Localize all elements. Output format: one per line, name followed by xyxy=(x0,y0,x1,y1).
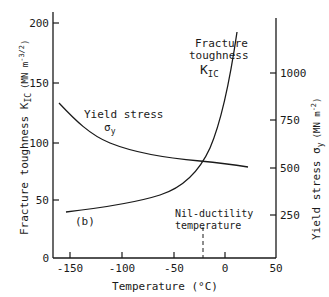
yield-stress-annotation: Yield stress σy xyxy=(84,108,163,136)
svg-text:σy: σy xyxy=(104,121,116,136)
y-right-ticks xyxy=(270,73,276,215)
svg-text:150: 150 xyxy=(29,77,49,90)
svg-text:100: 100 xyxy=(29,137,49,150)
svg-text:200: 200 xyxy=(29,17,49,30)
svg-text:Yield stress: Yield stress xyxy=(84,108,163,121)
svg-text:-100: -100 xyxy=(109,262,136,275)
svg-text:Nil-ductility: Nil-ductility xyxy=(175,208,253,219)
chart-canvas: 0 50 100 150 200 1000 750 500 250 -150 -… xyxy=(0,0,329,297)
svg-text:toughness: toughness xyxy=(189,49,249,62)
y-right-tick-labels: 1000 750 500 250 xyxy=(280,67,307,222)
y-left-tick-labels: 0 50 100 150 200 xyxy=(29,17,49,265)
ndt-annotation: Nil-ductility temperature xyxy=(175,208,253,231)
svg-text:-150: -150 xyxy=(57,262,84,275)
svg-text:Fracture toughness KIC(MN m-3: Fracture toughness KIC(MN m-3/2) xyxy=(18,40,33,235)
panel-label: (b) xyxy=(75,215,95,228)
y-right-axis-label: Yield stress σy(MN m-2) xyxy=(310,98,325,241)
svg-text:1000: 1000 xyxy=(280,67,307,80)
svg-text:0: 0 xyxy=(42,252,49,265)
svg-text:750: 750 xyxy=(280,114,300,127)
svg-text:500: 500 xyxy=(280,162,300,175)
y-left-ticks xyxy=(53,23,59,200)
svg-text:50: 50 xyxy=(36,194,49,207)
kic-annotation: Fracture toughness KIC xyxy=(189,37,249,79)
svg-text:KIC: KIC xyxy=(200,62,219,79)
svg-text:temperature: temperature xyxy=(175,220,241,231)
svg-text:50: 50 xyxy=(269,262,282,275)
x-axis-label: Temperature (°C) xyxy=(112,280,218,293)
x-ticks xyxy=(70,252,225,258)
svg-text:250: 250 xyxy=(280,209,300,222)
svg-text:0: 0 xyxy=(222,262,229,275)
svg-text:Yield stress σy(MN m-2): Yield stress σy(MN m-2) xyxy=(310,98,325,241)
svg-text:-50: -50 xyxy=(164,262,184,275)
y-left-axis-label: Fracture toughness KIC(MN m-3/2) xyxy=(18,40,33,235)
x-tick-labels: -150 -100 -50 0 50 xyxy=(57,262,283,275)
